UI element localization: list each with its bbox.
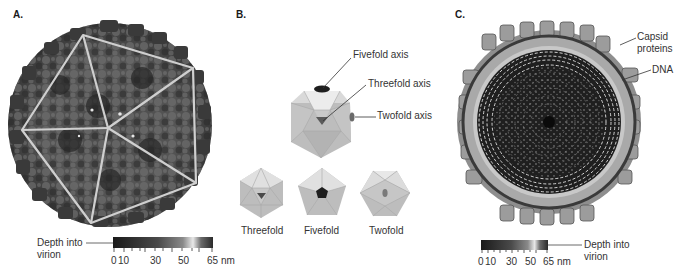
- panel-c-tick-10: 10: [485, 256, 496, 267]
- scale-title-line1: Depth into: [37, 237, 83, 249]
- view-threefold: [240, 168, 283, 218]
- panel-a-tick-10: 10: [118, 255, 129, 266]
- panel-c-scale-title: Depth into virion: [584, 239, 630, 263]
- scale-title-line1: Depth into: [584, 239, 630, 251]
- panel-c-depth-scale: [481, 240, 582, 253]
- panel-a-tick-50: 50: [178, 255, 189, 266]
- callout-dna: DNA: [652, 64, 673, 76]
- panel-a-tick-65: 65 nm: [207, 255, 235, 266]
- view-fivefold: [298, 168, 346, 215]
- figure-graphics: [0, 0, 688, 279]
- panel-a-scale-title: Depth into virion: [37, 237, 83, 261]
- callout-capsid-proteins: Capsid proteins: [637, 31, 673, 55]
- panel-a-depth-scale: [86, 237, 213, 252]
- panel-c-label: C.: [455, 9, 465, 20]
- panel-c-tick-30: 30: [506, 256, 517, 267]
- callout-fivefold-axis: Fivefold axis: [353, 49, 409, 61]
- view-label-twofold: Twofold: [369, 225, 403, 237]
- capsid-line2: proteins: [637, 43, 673, 55]
- panel-c-virion-section: [457, 21, 651, 225]
- panel-b-icosahedron: [291, 58, 376, 158]
- view-twofold: [360, 171, 410, 216]
- fivefold-marker-icon: [314, 86, 330, 93]
- panel-a-tick-30: 30: [150, 255, 161, 266]
- view-label-threefold: Threefold: [241, 225, 283, 237]
- twofold-marker-icon: [350, 113, 355, 122]
- view-label-fivefold: Fivefold: [304, 225, 339, 237]
- callout-threefold-axis: Threefold axis: [368, 78, 431, 90]
- panel-c-tick-65: 65 nm: [543, 256, 571, 267]
- capsid-line1: Capsid: [637, 31, 673, 43]
- panel-c-tick-0: 0: [478, 256, 484, 267]
- panel-a-virion: [8, 20, 212, 227]
- scale-title-line2: virion: [584, 251, 630, 263]
- callout-twofold-axis: Twofold axis: [377, 110, 432, 122]
- panel-a-tick-0: 0: [111, 255, 117, 266]
- panel-c-tick-50: 50: [525, 256, 536, 267]
- scale-title-line2: virion: [37, 249, 83, 261]
- panel-b-label: B.: [236, 9, 246, 20]
